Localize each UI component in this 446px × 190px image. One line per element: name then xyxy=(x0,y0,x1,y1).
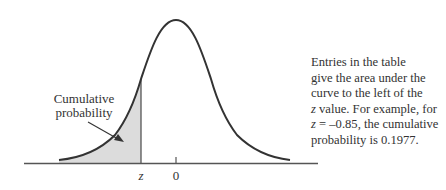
caption-line-3: curve to the left of the xyxy=(311,86,446,102)
cumulative-label-line1: Cumulative xyxy=(54,91,115,106)
caption-line-5: z = –0.85, the cumulative xyxy=(311,117,446,133)
caption-line-2: give the area under the xyxy=(311,71,446,87)
caption-line-1: Entries in the table xyxy=(311,55,446,71)
normal-curve xyxy=(59,20,290,160)
caption-line-6: probability is 0.1977. xyxy=(311,133,446,149)
zero-axis-label: 0 xyxy=(173,168,180,183)
cumulative-label-line2: probability xyxy=(55,105,113,120)
caption-line-4: z value. For example, for xyxy=(311,102,446,118)
z-axis-label: z xyxy=(137,168,143,183)
caption-text: Entries in the table give the area under… xyxy=(311,55,446,149)
caption-line-4-rest: value. For example, for xyxy=(316,102,437,116)
caption-line-5-rest: = –0.85, the cumulative xyxy=(316,117,439,131)
label-arrow xyxy=(88,122,118,139)
